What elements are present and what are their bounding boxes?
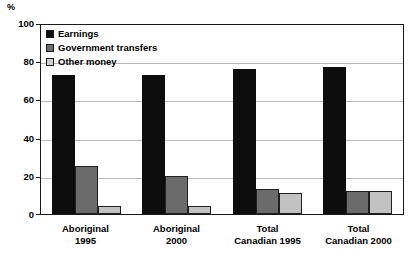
x-category-line2: Canadian 2000 [313, 235, 404, 247]
bars [313, 25, 404, 214]
x-category-line2: 2000 [131, 235, 222, 247]
x-category-line1: Aboriginal [153, 223, 200, 234]
legend-swatch-other-icon [46, 58, 54, 66]
x-category-label: TotalCanadian 2000 [313, 218, 404, 262]
y-tick-label: 100 [18, 19, 34, 29]
bar-group [313, 25, 404, 214]
bar-other [279, 193, 302, 214]
bar-other [188, 206, 211, 214]
y-tick-label: 80 [23, 57, 34, 67]
bar-gov [256, 189, 279, 214]
bar-chart: % 020406080100 EarningsGovernment transf… [0, 0, 412, 268]
x-category-label: TotalCanadian 1995 [222, 218, 313, 262]
x-axis: Aboriginal1995Aboriginal2000TotalCanadia… [40, 218, 404, 262]
x-category-line1: Aboriginal [62, 223, 109, 234]
x-category-line2: Canadian 1995 [222, 235, 313, 247]
y-axis: 020406080100 [0, 24, 40, 215]
legend-item: Government transfers [46, 42, 157, 53]
legend-item: Other money [46, 56, 157, 67]
legend-swatch-earnings-icon [46, 30, 54, 38]
bar-earnings [323, 67, 346, 214]
legend-label: Other money [58, 56, 117, 67]
bar-earnings [233, 69, 256, 214]
bar-group [222, 25, 313, 214]
bar-gov [165, 176, 188, 214]
legend-label: Government transfers [58, 42, 157, 53]
y-tick-label: 40 [23, 134, 34, 144]
y-axis-unit-label: % [7, 2, 15, 12]
bar-other [98, 206, 121, 214]
y-tick-label: 0 [29, 210, 34, 220]
bar-gov [346, 191, 369, 214]
bars [222, 25, 313, 214]
x-category-line1: Total [348, 223, 370, 234]
legend-item: Earnings [46, 28, 157, 39]
bar-gov [75, 166, 98, 214]
legend: EarningsGovernment transfersOther money [46, 28, 157, 67]
x-category-label: Aboriginal2000 [131, 218, 222, 262]
x-category-line2: 1995 [40, 235, 131, 247]
y-tick-label: 20 [23, 172, 34, 182]
bar-earnings [52, 75, 75, 214]
x-category-line1: Total [257, 223, 279, 234]
legend-swatch-gov-icon [46, 44, 54, 52]
legend-label: Earnings [58, 28, 99, 39]
bar-earnings [142, 75, 165, 214]
x-category-label: Aboriginal1995 [40, 218, 131, 262]
bar-other [369, 191, 392, 214]
y-tick-label: 60 [23, 95, 34, 105]
